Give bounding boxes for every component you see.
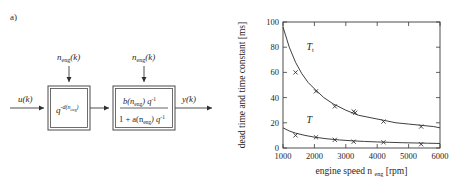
output-signal-label: y(k) [181,94,196,104]
chart-svg: 100020003000400050006000020406080100TtTe… [225,0,453,185]
x-tick-label: 4000 [369,151,386,161]
y-tick-label: 80 [271,42,280,52]
figure-root: a) u(k) [0,0,453,185]
scheduling-label-1: neng(k) [57,52,80,63]
x-tick-label: 5000 [400,151,417,161]
scheduling-label-2: neng(k) [132,52,155,63]
x-axis-label: engine speed n eng [rpm] [316,166,408,177]
panel-b-chart: b) 100020003000400050006000020406080100T… [225,0,453,185]
x-tick-label: 2000 [306,151,323,161]
x-tick-label: 3000 [337,151,354,161]
x-tick-label: 6000 [432,151,449,161]
input-signal-label: u(k) [18,94,33,104]
y-tick-label: 40 [271,93,280,103]
block-transfer-denominator: 1 + a(neng) q-1 [119,114,165,126]
panel-a-block-diagram: a) u(k) [0,0,225,185]
block-diagram-svg: u(k) y(k) neng(k) neng(k) q-d(neng) b(ne… [0,0,225,185]
y-tick-label: 0 [275,143,279,153]
y-tick-label: 100 [266,17,279,27]
y-tick-label: 60 [271,67,280,77]
y-axis-label: dead time and time constant [ms] [237,22,247,148]
y-tick-label: 20 [271,118,280,128]
